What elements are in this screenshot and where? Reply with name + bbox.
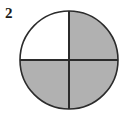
fraction-circle-svg: [0, 0, 133, 118]
fraction-circle-figure: [0, 0, 133, 118]
